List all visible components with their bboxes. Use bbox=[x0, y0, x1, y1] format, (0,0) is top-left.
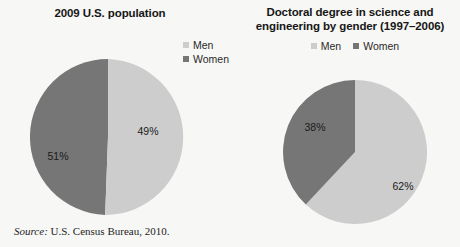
legend-label-men: Men bbox=[193, 39, 213, 51]
legend-swatch-men-icon bbox=[311, 43, 317, 49]
source-label: Source: bbox=[14, 225, 48, 237]
legend-label-men: Men bbox=[321, 40, 341, 52]
legend-item-women: Women bbox=[183, 53, 229, 65]
pie-chart-us-population: 51% 49% bbox=[30, 59, 186, 215]
pie-chart-doctoral-degree: 38% 62% bbox=[283, 80, 427, 224]
pie-label-women: 38% bbox=[304, 121, 325, 133]
legend-label-women: Women bbox=[193, 53, 229, 65]
pie-label-women: 51% bbox=[47, 150, 68, 162]
chart-title-doctoral-degree: Doctoral degree in science and engineeri… bbox=[240, 6, 460, 33]
legend-item-women: Women bbox=[353, 40, 399, 52]
figure-two-pie-charts: 2009 U.S. population Men Women 51% 49% D… bbox=[0, 0, 460, 247]
source-text: U.S. Census Bureau, 2010. bbox=[51, 225, 170, 237]
legend-swatch-women-icon bbox=[353, 43, 359, 49]
legend-item-men: Men bbox=[311, 40, 341, 52]
chart-title-us-population: 2009 U.S. population bbox=[10, 7, 210, 21]
legend-item-men: Men bbox=[183, 39, 213, 51]
source-note: Source: U.S. Census Bureau, 2010. bbox=[14, 225, 169, 237]
legend-us-population: Men Women bbox=[183, 39, 229, 65]
legend-label-women: Women bbox=[363, 40, 399, 52]
legend-swatch-men-icon bbox=[183, 42, 189, 48]
legend-doctoral-degree: Men Women bbox=[296, 40, 414, 52]
pie-label-men: 62% bbox=[392, 180, 413, 192]
pie-label-men: 49% bbox=[137, 125, 158, 137]
pie-slice-women bbox=[30, 59, 108, 215]
